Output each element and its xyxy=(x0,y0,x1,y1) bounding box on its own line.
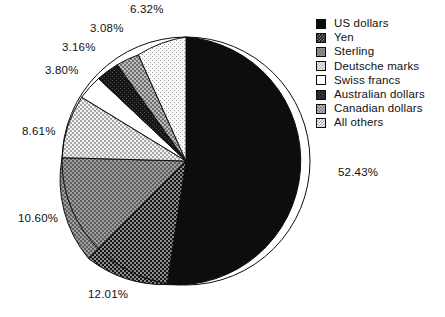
legend-swatch-icon-us-dollars xyxy=(316,19,326,29)
legend-label-us-dollars: US dollars xyxy=(334,18,389,30)
legend-item-all-others[interactable]: All others xyxy=(316,116,442,130)
pie-slice-us-dollars xyxy=(167,37,301,285)
legend-label-canadian-dollars: Canadian dollars xyxy=(334,103,423,115)
legend-label-yen: Yen xyxy=(334,32,354,44)
legend-item-deutsche-marks[interactable]: Deutsche marks xyxy=(316,59,442,73)
legend-item-australian-dollars[interactable]: Australian dollars xyxy=(316,87,442,101)
pie-label-us-dollars: 52.43% xyxy=(338,166,378,178)
pie-label-australian-dollars: 3.16% xyxy=(62,41,96,53)
pie-label-deutsche-marks: 8.61% xyxy=(22,125,56,137)
legend-item-sterling[interactable]: Sterling xyxy=(316,45,442,59)
legend-label-swiss-francs: Swiss francs xyxy=(334,75,400,87)
legend-swatch-icon-all-others xyxy=(316,118,326,128)
pie-label-all-others: 6.32% xyxy=(130,3,164,15)
pie-label-sterling: 10.60% xyxy=(18,212,58,224)
legend-label-all-others: All others xyxy=(334,117,383,129)
legend-swatch-icon-sterling xyxy=(316,47,326,57)
legend-item-yen[interactable]: Yen xyxy=(316,31,442,45)
legend-swatch-icon-canadian-dollars xyxy=(316,104,326,114)
legend-swatch-icon-deutsche-marks xyxy=(316,61,326,71)
legend-item-canadian-dollars[interactable]: Canadian dollars xyxy=(316,102,442,116)
legend-swatch-icon-swiss-francs xyxy=(316,75,326,85)
legend-swatch-icon-australian-dollars xyxy=(316,90,326,100)
legend-swatch-icon-yen xyxy=(316,33,326,43)
pie-label-canadian-dollars: 3.08% xyxy=(90,22,124,34)
pie-label-swiss-francs: 3.80% xyxy=(45,64,79,76)
legend-item-us-dollars[interactable]: US dollars xyxy=(316,17,442,31)
legend-item-swiss-francs[interactable]: Swiss francs xyxy=(316,73,442,87)
legend-label-australian-dollars: Australian dollars xyxy=(334,89,425,101)
pie-chart-figure: 52.43% 12.01% 10.60% 8.61% 3.80% 3.16% 3… xyxy=(0,0,445,317)
legend-label-deutsche-marks: Deutsche marks xyxy=(334,61,419,73)
pie-slices xyxy=(60,37,301,285)
legend-label-sterling: Sterling xyxy=(334,46,374,58)
chart-legend: US dollars Yen Sterling Deutsche marks S… xyxy=(316,17,442,130)
pie-label-yen: 12.01% xyxy=(88,288,128,300)
